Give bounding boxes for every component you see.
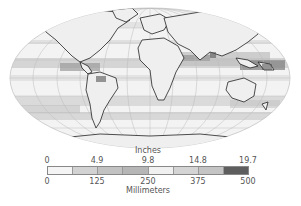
inch-tick: 4.9 — [82, 156, 112, 165]
legend-segment — [98, 167, 123, 174]
inch-tick: 14.8 — [183, 156, 213, 165]
legend-segment — [224, 167, 248, 174]
legend-top-unit: Inches — [108, 146, 188, 155]
inch-tick: 19.7 — [233, 156, 263, 165]
legend-segment — [199, 167, 224, 174]
legend-segment — [149, 167, 174, 174]
mm-tick: 250 — [133, 177, 163, 186]
world-precipitation-map — [0, 0, 301, 150]
mm-tick: 0 — [32, 177, 62, 186]
mm-tick: 125 — [82, 177, 112, 186]
legend-color-bar — [47, 166, 249, 175]
inch-tick: 0 — [32, 156, 62, 165]
mm-tick: 500 — [233, 177, 263, 186]
legend-segment — [123, 167, 148, 174]
mm-tick: 375 — [183, 177, 213, 186]
legend-bottom-unit: Millimeters — [108, 186, 188, 195]
legend-segment — [73, 167, 98, 174]
legend-segment — [174, 167, 199, 174]
inch-tick: 9.8 — [133, 156, 163, 165]
legend-segment — [48, 167, 73, 174]
